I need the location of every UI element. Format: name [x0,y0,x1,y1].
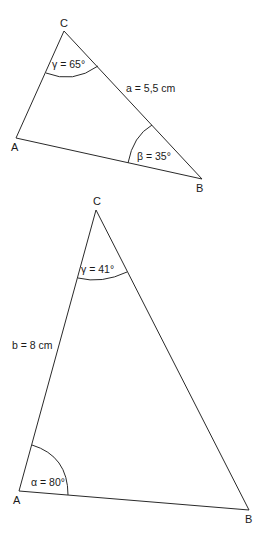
triangle-2-side-b-label: b = 8 cm [12,339,53,351]
triangle-1-vertex-label-c: C [60,17,68,29]
triangle-1-side-a-label: a = 5,5 cm [126,82,176,94]
triangle-2-side-ab [19,491,249,510]
triangle-1-side-cb [64,31,202,179]
triangle-2-angle-gamma-label: γ = 41° [81,263,114,275]
triangle-2-side-cb [96,210,249,510]
triangle-2-vertex-label-a: A [13,494,21,506]
triangle-1-angle-beta-label: β = 35° [137,150,171,162]
triangle-2-angle-alpha-label: α = 80° [31,476,65,488]
triangle-2-vertex-label-c: C [93,195,101,207]
triangle-1-vertex-label-a: A [11,141,19,153]
triangle-1: C A B γ = 65° a = 5,5 cm β = 35° [11,17,203,194]
triangle-2: C A B γ = 41° b = 8 cm α = 80° [12,195,252,525]
triangle-diagrams: C A B γ = 65° a = 5,5 cm β = 35° C A B γ… [0,0,264,552]
triangle-1-side-ab [16,138,202,179]
triangle-1-side-ac [16,31,64,138]
triangle-2-vertex-label-b: B [245,513,252,525]
triangle-1-angle-gamma-label: γ = 65° [52,58,85,70]
triangle-1-vertex-label-b: B [196,182,203,194]
